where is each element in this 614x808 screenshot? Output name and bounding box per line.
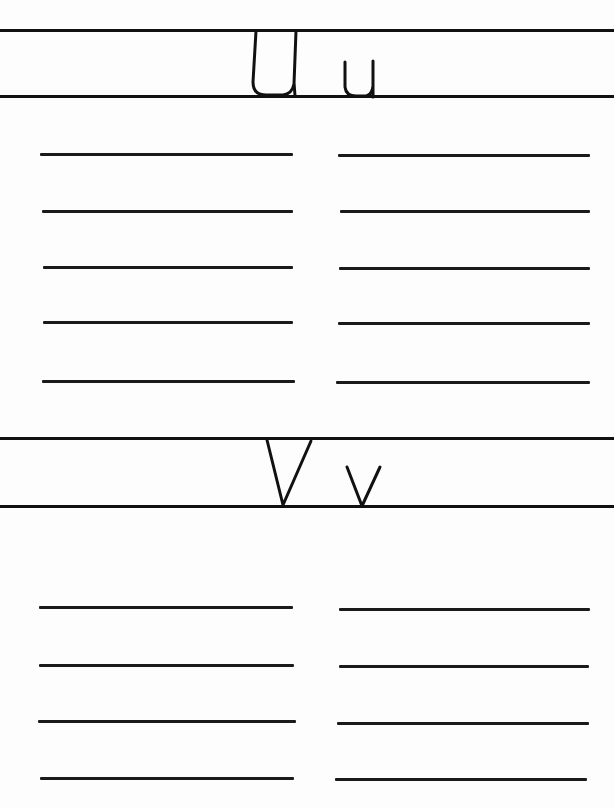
letter-lowercase-v [347,467,380,506]
model-letters [0,0,614,808]
letter-uppercase-v [267,440,311,505]
letter-lowercase-u [345,61,373,97]
letter-uppercase-u [253,31,296,96]
